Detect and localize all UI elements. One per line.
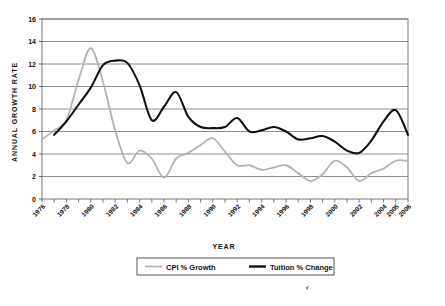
y-tick-label: 10 — [28, 83, 36, 90]
y-tick-label: 4 — [32, 151, 36, 158]
y-tick-label: 16 — [28, 16, 36, 23]
growth-rate-line-chart: 0246810121416 19761978198019821984198619… — [0, 0, 445, 306]
legend-label-cpi-growth: CPI % Growth — [166, 263, 216, 272]
y-tick-label: 0 — [32, 196, 36, 203]
y-tick-label: 2 — [32, 173, 36, 180]
chart-container: 0246810121416 19761978198019821984198619… — [0, 0, 445, 306]
y-axis-title: ANNUAL GROWTH RATE — [11, 62, 18, 162]
y-tick-label: 8 — [32, 106, 36, 113]
legend-label-tuition-change: Tuition % Change — [270, 263, 333, 272]
y-tick-label: 14 — [28, 38, 36, 45]
x-axis-title: YEAR — [212, 243, 235, 250]
chart-legend: CPI % GrowthTuition % Change — [137, 258, 334, 275]
y-tick-label: 6 — [32, 128, 36, 135]
y-tick-label: 12 — [28, 61, 36, 68]
